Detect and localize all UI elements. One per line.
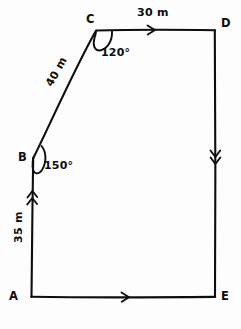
vertex-label-C: C [86, 14, 94, 26]
vertex-label-A: A [9, 291, 18, 303]
angle-label-C: 120° [101, 47, 130, 58]
vertex-label-E: E [221, 291, 229, 303]
edge-BC [34, 32, 96, 158]
edge-AB [32, 159, 34, 298]
edge-AE [31, 297, 215, 298]
angle-label-B: 150° [44, 160, 73, 171]
vertex-label-B: B [18, 152, 27, 164]
side-length-label-CD: 30 m [137, 7, 169, 18]
geometry-diagram: A B C D E 30 m 40 m 35 m 120° 150° [0, 0, 241, 329]
vertex-label-D: D [221, 18, 231, 30]
side-length-label-AB: 35 m [13, 211, 24, 243]
